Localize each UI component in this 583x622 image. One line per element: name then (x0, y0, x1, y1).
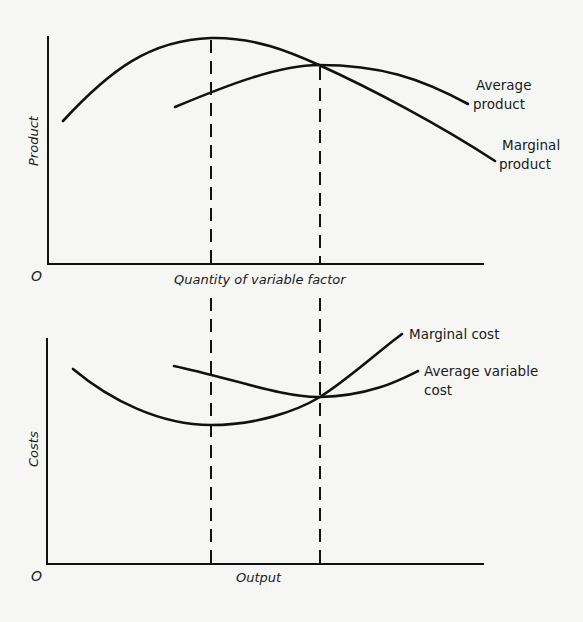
cost-origin-label: O (31, 568, 42, 584)
cost-x-axis-label: Output (236, 570, 282, 585)
reference-lines (211, 40, 320, 564)
marginal-product-curve (63, 38, 495, 161)
cost-chart: Marginal cost Average variable cost Cost… (26, 326, 538, 585)
cost-y-axis-label: Costs (26, 431, 41, 467)
product-chart: Average product Marginal product Product… (26, 36, 560, 287)
product-x-axis-label: Quantity of variable factor (174, 272, 347, 287)
average-variable-cost-label-line2: cost (424, 382, 452, 398)
average-product-label-line1: Average (476, 77, 531, 93)
marginal-product-label-line1: Marginal (502, 137, 560, 153)
product-y-axis-label: Product (26, 115, 41, 166)
marginal-product-label-line2: product (499, 156, 551, 172)
average-product-label-line2: product (473, 96, 525, 112)
product-origin-label: O (31, 268, 42, 284)
average-product-curve (175, 65, 468, 107)
marginal-cost-curve (73, 334, 402, 425)
average-variable-cost-label-line1: Average variable (424, 363, 538, 379)
marginal-cost-label: Marginal cost (409, 326, 499, 342)
cost-product-figure: Average product Marginal product Product… (0, 0, 583, 622)
